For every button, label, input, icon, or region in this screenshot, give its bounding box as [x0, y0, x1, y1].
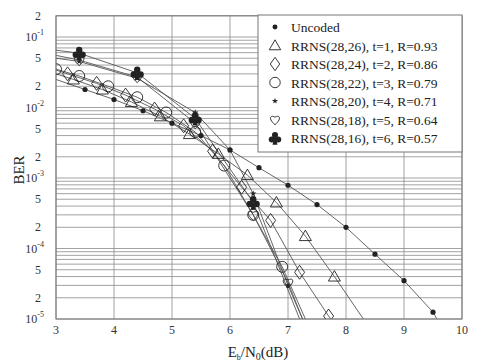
legend-item: RRNS(28,16), t=6, R=0.57 [269, 131, 438, 146]
legend-item: RRNS(28,18), t=5, R=0.64 [270, 113, 437, 128]
filled-circle-marker-icon [111, 97, 116, 102]
x-tick-label: 9 [401, 323, 407, 337]
legend-item: RRNS(28,22), t=3, R=0.79 [270, 76, 438, 91]
y-tick-label: 10-4 [25, 240, 44, 256]
filled-circle-marker-icon [256, 165, 261, 170]
x-tick-label: 7 [285, 323, 291, 337]
y-tick-label: 10-1 [25, 28, 44, 44]
x-tick-label: 6 [227, 323, 233, 337]
legend-item: RRNS(28,26), t=1, R=0.93 [269, 39, 437, 54]
y-tick-label: 10-2 [25, 99, 44, 115]
legend-label: RRNS(28,20), t=4, R=0.71 [291, 94, 438, 109]
filled-circle-marker-icon [285, 183, 290, 188]
legend-label: RRNS(28,26), t=1, R=0.93 [291, 39, 438, 54]
filled-circle-marker-icon [314, 202, 319, 207]
y-axis-ticks: 210-15210-25210-35210-45210-5 [25, 9, 44, 326]
x-tick-label: 5 [169, 323, 175, 337]
legend-label: RRNS(28,22), t=3, R=0.79 [291, 76, 438, 91]
y-tick-label: 5 [35, 263, 41, 277]
legend-label: RRNS(28,18), t=5, R=0.64 [291, 113, 438, 128]
x-tick-label: 4 [111, 323, 117, 337]
y-tick-label: 10-3 [25, 169, 44, 185]
filled-circle-marker-icon [169, 121, 174, 126]
filled-circle-marker-icon [140, 108, 145, 113]
x-tick-label: 3 [53, 323, 59, 337]
x-tick-label: 10 [456, 323, 468, 337]
filled-circle-marker-icon [343, 225, 348, 230]
legend-label: RRNS(28,24), t=2, R=0.86 [291, 57, 438, 72]
filled-circle-marker-icon [82, 87, 87, 92]
ber-chart: 210-15210-25210-35210-45210-5 345678910 … [0, 0, 480, 364]
y-tick-label: 2 [35, 9, 41, 23]
y-tick-label: 5 [35, 122, 41, 136]
legend-item: RRNS(28,20), t=4, R=0.71 [272, 94, 438, 109]
filled-circle-marker-icon [372, 252, 377, 257]
y-tick-label: 10-5 [25, 310, 44, 326]
filled-circle-marker-icon [430, 310, 435, 315]
y-tick-label: 2 [35, 291, 41, 305]
y-tick-label: 5 [35, 192, 41, 206]
legend: UncodedRRNS(28,26), t=1, R=0.93RRNS(28,2… [258, 15, 462, 152]
filled-circle-marker-icon [401, 278, 406, 283]
legend-item: RRNS(28,24), t=2, R=0.86 [270, 57, 437, 72]
filled-circle-marker-icon [273, 25, 278, 30]
y-tick-label: 5 [35, 51, 41, 65]
y-tick-label: 2 [35, 150, 41, 164]
y-tick-label: 2 [35, 79, 41, 93]
y-tick-label: 2 [35, 220, 41, 234]
x-axis-ticks: 345678910 [53, 323, 468, 337]
legend-label: Uncoded [291, 20, 340, 35]
x-axis-title: Eb/N0(dB) [228, 344, 289, 362]
x-tick-label: 8 [343, 323, 349, 337]
y-axis-title: BER [11, 155, 27, 184]
legend-label: RRNS(28,16), t=6, R=0.57 [291, 131, 438, 146]
